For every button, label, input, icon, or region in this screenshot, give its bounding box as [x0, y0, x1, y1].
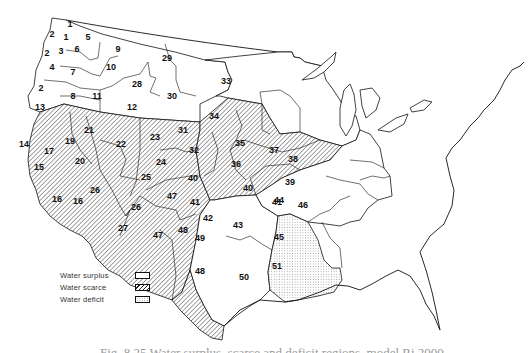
region-label-2a: 2 [49, 29, 54, 39]
region-label-31: 31 [178, 125, 188, 135]
region-label-46: 46 [298, 200, 308, 210]
region-label-28a: 28 [132, 79, 142, 89]
region-label-2c: 2 [38, 83, 43, 93]
region-label-19: 19 [65, 136, 75, 146]
region-label-25: 25 [141, 172, 151, 182]
region-label-38: 38 [288, 154, 298, 164]
region-label-23: 23 [150, 132, 160, 142]
region-label-26a: 26 [90, 185, 100, 195]
region-label-35: 35 [235, 138, 245, 148]
region-51-deficit [268, 214, 342, 302]
region-label-8: 8 [70, 91, 75, 101]
legend-item-surplus: Water surplus [60, 270, 150, 281]
region-label-2b: 2 [44, 48, 49, 58]
region-label-50: 50 [239, 272, 249, 282]
region-label-22: 22 [116, 139, 126, 149]
region-label-48b: 48 [195, 266, 205, 276]
region-label-33: 33 [221, 76, 231, 86]
legend-label-surplus: Water surplus [60, 271, 109, 280]
region-label-51: 51 [272, 261, 282, 271]
legend-label-scarce: Water scarce [60, 283, 106, 292]
legend-label-deficit: Water deficit [60, 295, 104, 304]
region-label-9: 9 [115, 44, 120, 54]
region-label-29: 29 [162, 53, 172, 63]
lake-huron [360, 88, 380, 118]
region-label-42: 42 [203, 213, 213, 223]
region-label-39: 39 [285, 177, 295, 187]
deficit-dot-swatch-icon [135, 296, 150, 303]
region-label-16a: 16 [52, 194, 62, 204]
region-label-26b: 26 [131, 202, 141, 212]
region-label-15: 15 [34, 162, 44, 172]
region-label-5: 5 [85, 32, 90, 42]
region-label-40a: 40 [188, 173, 198, 183]
region-label-47a: 47 [167, 191, 177, 201]
region-label-32: 32 [189, 145, 199, 155]
region-label-12: 12 [127, 102, 137, 112]
lake-erie [378, 114, 408, 132]
region-label-41a: 41 [190, 197, 200, 207]
lake-ontario [410, 100, 432, 112]
region-label-11: 11 [92, 91, 102, 101]
region-label-48a: 48 [178, 225, 188, 235]
region-label-13: 13 [35, 102, 45, 112]
region-label-4: 4 [49, 62, 54, 72]
region-label-16b: 16 [73, 196, 83, 206]
region-label-1b: 1 [63, 32, 68, 42]
region-label-44: 44 [274, 195, 284, 205]
map-legend: Water surplus Water scarce Water deficit [60, 270, 150, 306]
region-label-1: 1 [67, 19, 72, 29]
region-label-14: 14 [19, 139, 29, 149]
region-label-21: 21 [84, 125, 94, 135]
region-label-34: 34 [209, 111, 219, 121]
region-label-3: 3 [58, 46, 63, 56]
region-label-40b: 40 [243, 183, 253, 193]
region-label-43: 43 [233, 220, 243, 230]
region-label-7: 7 [70, 67, 75, 77]
legend-item-deficit: Water deficit [60, 294, 150, 305]
region-label-20: 20 [75, 156, 85, 166]
surplus-swatch-icon [135, 272, 150, 279]
region-label-30: 30 [167, 91, 177, 101]
region-label-49: 49 [195, 233, 205, 243]
legend-item-scarce: Water scarce [60, 282, 150, 293]
region-label-37: 37 [269, 145, 279, 155]
region-label-27: 27 [118, 223, 128, 233]
region-label-17: 17 [44, 146, 54, 156]
scarce-hatch-swatch-icon [135, 284, 150, 291]
region-label-6: 6 [74, 44, 79, 54]
region-label-45: 45 [274, 232, 284, 242]
region-label-24: 24 [156, 157, 166, 167]
region-label-47b: 47 [153, 230, 163, 240]
region-label-10: 10 [106, 62, 116, 72]
atlantic-coastline [420, 62, 524, 330]
region-label-36: 36 [231, 159, 241, 169]
figure-caption: Fig. 8.25 Water surplus, scarce and defi… [100, 344, 530, 353]
